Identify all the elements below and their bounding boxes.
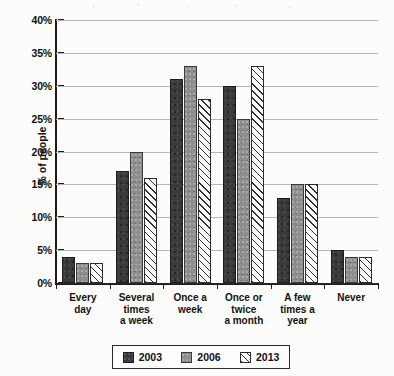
gridline-35: [56, 53, 378, 54]
x-tick-mark: [217, 283, 218, 289]
bar-2003-cat6: [331, 250, 344, 283]
bar-2003-cat3: [170, 79, 183, 283]
y-axis-title: % of people: [36, 96, 48, 216]
bar-2006-cat3: [184, 66, 197, 283]
x-axis-label-6: Never: [324, 292, 378, 304]
x-tick-mark: [271, 283, 272, 289]
x-axis-label-3: Once a week: [163, 292, 217, 315]
bar-2006-cat4: [237, 119, 250, 283]
x-tick-mark: [56, 283, 57, 289]
bar-2013-cat4: [251, 66, 264, 283]
bar-2006-cat2: [130, 152, 143, 284]
legend-label-2013: 2013: [256, 351, 279, 363]
bar-2006-cat1: [76, 263, 89, 283]
y-tick-label-40: 40%: [18, 14, 52, 26]
gridline-40: [56, 20, 378, 21]
legend-swatch-2003: [123, 352, 134, 363]
bar-2013-cat5: [305, 184, 318, 283]
bar-2003-cat4: [223, 86, 236, 283]
gridline-20: [56, 152, 378, 153]
bar-2013-cat2: [144, 178, 157, 283]
legend-entry-2003[interactable]: 2003: [123, 351, 162, 363]
bar-2013-cat1: [90, 263, 103, 283]
plot-area: [56, 20, 378, 283]
bar-2003-cat1: [62, 257, 75, 283]
x-tick-mark: [163, 283, 164, 289]
gridline-25: [56, 119, 378, 120]
bar-2013-cat6: [359, 257, 372, 283]
x-axis-label-2: Several times a week: [110, 292, 164, 327]
y-tick-label-5: 5%: [18, 244, 52, 256]
gridline-10: [56, 217, 378, 218]
x-axis-label-5: A few times a year: [271, 292, 325, 327]
legend-swatch-2013: [240, 352, 251, 363]
y-tick-label-30: 30%: [18, 80, 52, 92]
legend-label-2003: 2003: [139, 351, 162, 363]
chart-page: 0%5%10%15%20%25%30%35%40% % of people Ev…: [0, 0, 394, 376]
bar-2013-cat3: [198, 99, 211, 283]
bar-2003-cat5: [277, 198, 290, 283]
bar-2003-cat2: [116, 171, 129, 283]
x-tick-mark: [110, 283, 111, 289]
gridline-30: [56, 86, 378, 87]
bar-2006-cat5: [291, 184, 304, 283]
x-axis-label-1: Every day: [56, 292, 110, 315]
x-tick-mark: [324, 283, 325, 289]
legend-entry-2006[interactable]: 2006: [181, 351, 220, 363]
x-tick-mark: [378, 283, 379, 289]
y-tick-label-35: 35%: [18, 47, 52, 59]
bar-2006-cat6: [345, 257, 358, 283]
legend-entry-2013[interactable]: 2013: [240, 351, 279, 363]
scan-artifact: [60, 2, 340, 11]
legend-swatch-2006: [181, 352, 192, 363]
x-axis-label-4: Once or twice a month: [217, 292, 271, 327]
y-tick-label-0: 0%: [18, 277, 52, 289]
legend-label-2006: 2006: [197, 351, 220, 363]
gridline-15: [56, 184, 378, 185]
chart-legend: 200320062013: [112, 345, 290, 369]
